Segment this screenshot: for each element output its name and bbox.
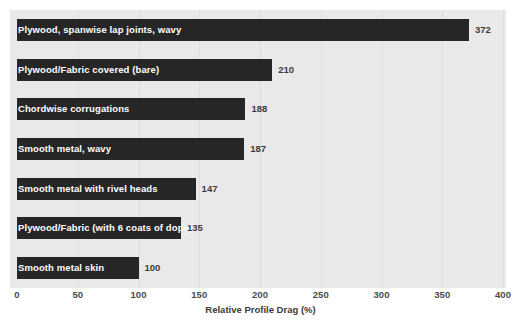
bar-row[interactable]: Smooth metal, wavy187: [10, 138, 506, 160]
x-axis-tick-label: 400: [495, 289, 511, 300]
x-axis-tick-label: 100: [131, 289, 147, 300]
bar-row[interactable]: Plywood, spanwise lap joints, wavy372: [10, 19, 506, 41]
bar-value-label: 135: [187, 217, 203, 239]
x-axis-tick-label: 50: [72, 289, 83, 300]
x-axis: 050100150200250300350400 Relative Profil…: [0, 288, 521, 321]
bar-row[interactable]: Smooth metal with rivel heads147: [10, 178, 506, 200]
bar-category-label: Smooth metal with rivel heads: [18, 178, 158, 200]
x-axis-tick-label: 350: [434, 289, 450, 300]
x-axis-tick-label: 300: [374, 289, 390, 300]
bar-value-label: 188: [251, 98, 267, 120]
bar-row[interactable]: Plywood/Fabric covered (bare)210: [10, 59, 506, 81]
x-axis-tick-label: 200: [252, 289, 268, 300]
bar-value-label: 210: [278, 59, 294, 81]
bars-container: Plywood, spanwise lap joints, wavy372Ply…: [10, 10, 506, 288]
bar-category-label: Smooth metal skin: [18, 257, 104, 279]
x-axis-tick-label: 250: [313, 289, 329, 300]
bar-category-label: Plywood/Fabric covered (bare): [18, 59, 159, 81]
x-axis-title: Relative Profile Drag (%): [0, 304, 521, 315]
bar-chart: Plywood, spanwise lap joints, wavy372Ply…: [0, 0, 521, 321]
plot-area: Plywood, spanwise lap joints, wavy372Ply…: [10, 10, 506, 288]
bar-value-label: 187: [250, 138, 266, 160]
bar-value-label: 100: [145, 257, 161, 279]
bar-category-label: Smooth metal, wavy: [18, 138, 111, 160]
bar-category-label: Plywood/Fabric (with 6 coats of dope): [18, 217, 192, 239]
bar-value-label: 147: [202, 178, 218, 200]
bar-row[interactable]: Smooth metal skin100: [10, 257, 506, 279]
bar-row[interactable]: Plywood/Fabric (with 6 coats of dope)135: [10, 217, 506, 239]
bar-row[interactable]: Chordwise corrugations188: [10, 98, 506, 120]
bar-category-label: Chordwise corrugations: [18, 98, 129, 120]
bar-value-label: 372: [475, 19, 491, 41]
x-axis-tick-label: 0: [14, 289, 19, 300]
bar-category-label: Plywood, spanwise lap joints, wavy: [18, 19, 181, 41]
x-axis-tick-label: 150: [191, 289, 207, 300]
